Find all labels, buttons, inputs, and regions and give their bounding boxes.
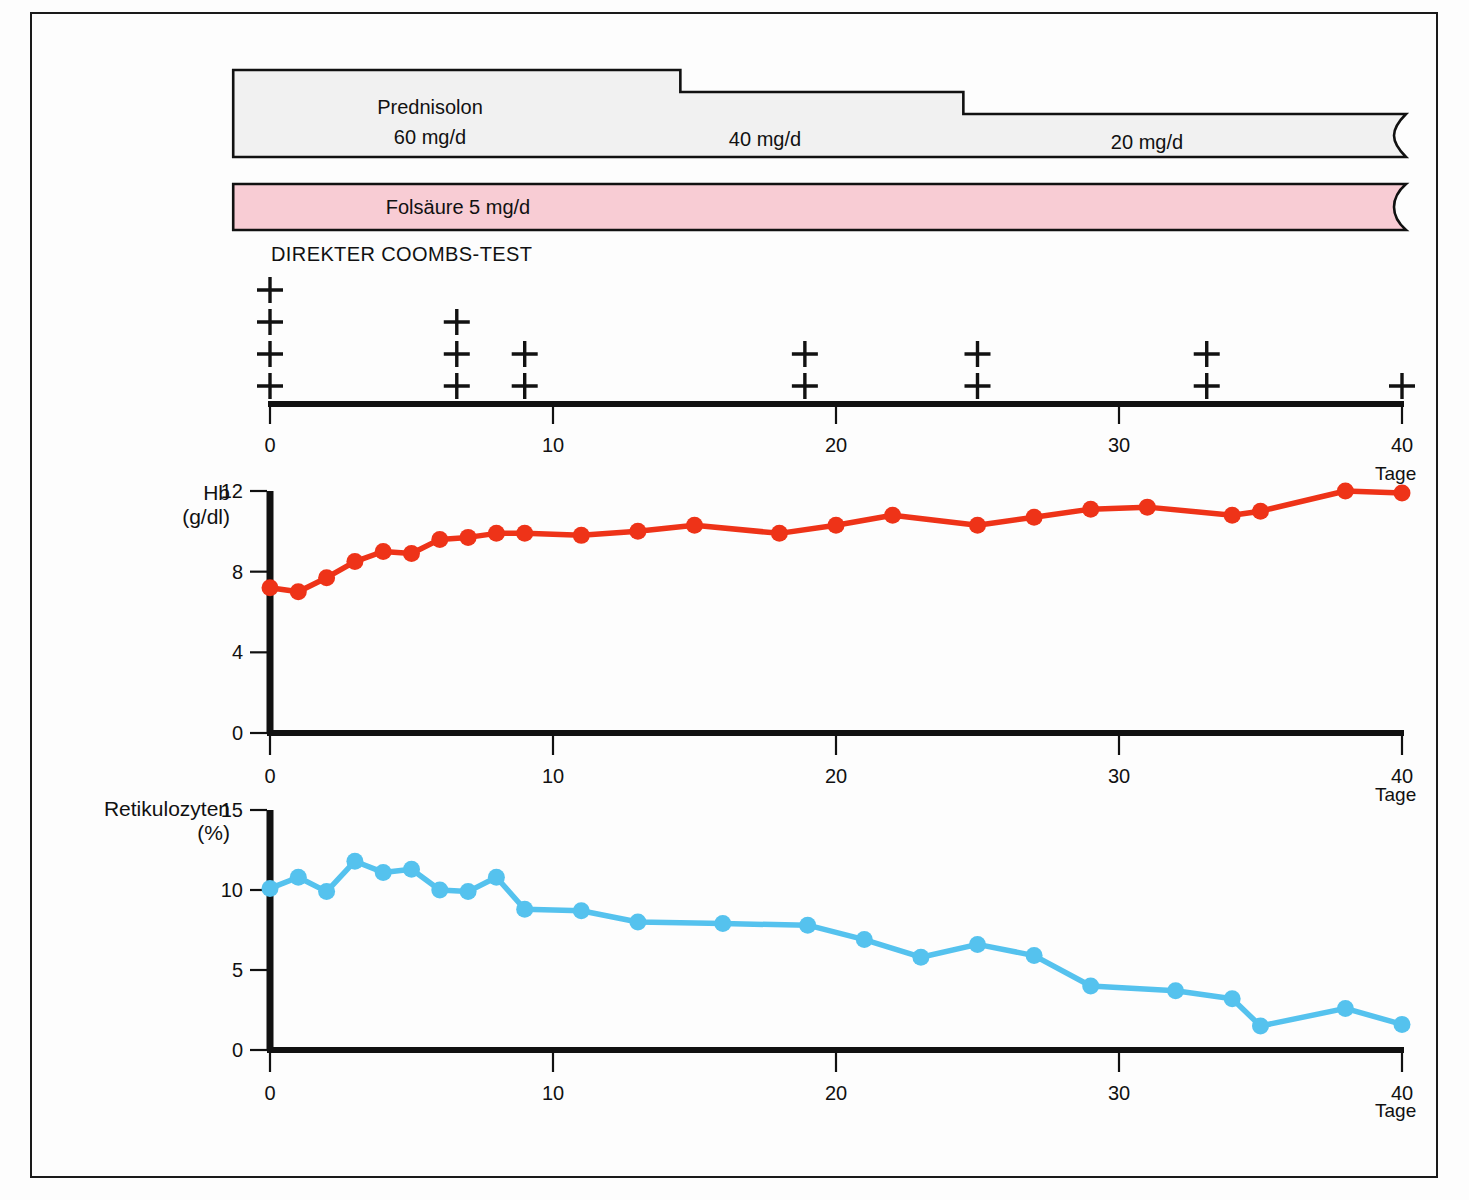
coombs-plus-icon	[965, 341, 991, 367]
retikulozyten-y-axis-tick-label: 0	[232, 1039, 243, 1061]
hb-axis-title: Hb	[120, 481, 230, 505]
prednisolon-dose-1-label: 60 mg/d	[355, 126, 505, 149]
retikulozyten-data-point	[1026, 947, 1043, 964]
coombs-reading	[512, 341, 538, 399]
retikulozyten-data-point	[1082, 978, 1099, 995]
haemoglobin-data-point	[771, 525, 788, 542]
haemoglobin-data-point	[1082, 501, 1099, 518]
coombs-plus-icon	[1194, 341, 1220, 367]
haemoglobin-data-point	[262, 579, 279, 596]
retikulozyten-data-point	[714, 915, 731, 932]
haemoglobin-data-point	[1026, 509, 1043, 526]
retikulozyten-data-point	[969, 936, 986, 953]
retikulozyten-data-point	[460, 883, 477, 900]
coombs-reading	[792, 341, 818, 399]
prednisolon-dose-2-label: 40 mg/d	[690, 128, 840, 151]
retikulozyten-data-point	[629, 914, 646, 931]
retikulozyten-data-point	[262, 880, 279, 897]
folsaeure-label: Folsäure 5 mg/d	[343, 196, 573, 219]
haemoglobin-y-axis-tick-label: 8	[232, 561, 243, 583]
hb-axis-caption: Tage	[1375, 784, 1416, 806]
retikulozyten-data-point	[488, 869, 505, 886]
haemoglobin-data-point	[1224, 507, 1241, 524]
hb-axis-unit: (g/dl)	[120, 505, 230, 529]
retikulozyten-data-point	[912, 949, 929, 966]
haemoglobin-data-point	[403, 545, 420, 562]
haemoglobin-data-point	[375, 543, 392, 560]
haemoglobin-data-point	[828, 517, 845, 534]
retikulozyten-data-point	[346, 853, 363, 870]
haemoglobin-data-point	[629, 523, 646, 540]
coombs-axis-caption: Tage	[1375, 463, 1416, 485]
retikulozyten-x-axis-tick-label: 20	[825, 1082, 847, 1104]
coombs-plus-icon	[512, 341, 538, 367]
coombs-plus-icon	[444, 309, 470, 335]
haemoglobin-x-axis-tick-label: 30	[1108, 765, 1130, 787]
coombs-reading	[1194, 341, 1220, 399]
retikulozyten-x-axis-tick-label: 0	[264, 1082, 275, 1104]
coombs-reading	[1389, 373, 1415, 399]
prednisolon-dose-3-label: 20 mg/d	[1072, 131, 1222, 154]
coombs-axis-tick-label: 20	[825, 434, 847, 456]
haemoglobin-data-point	[346, 553, 363, 570]
coombs-axis-tick-label: 10	[542, 434, 564, 456]
haemoglobin-data-point	[1139, 499, 1156, 516]
retikulozyten-data-point	[431, 882, 448, 899]
coombs-plus-icon	[1194, 373, 1220, 399]
haemoglobin-data-point	[290, 583, 307, 600]
haemoglobin-data-point	[969, 517, 986, 534]
coombs-plus-icon	[512, 373, 538, 399]
coombs-plus-icon	[257, 277, 283, 303]
retikulozyten-data-point	[1252, 1018, 1269, 1035]
retikulozyten-axis-unit: (%)	[60, 821, 230, 845]
retikulozyten-data-point	[290, 869, 307, 886]
retikulozyten-axis-title: Retikulozyten	[60, 797, 230, 821]
coombs-plus-icon	[444, 341, 470, 367]
coombs-plus-icon	[444, 373, 470, 399]
retikulozyten-data-point	[375, 864, 392, 881]
retikulozyten-data-point	[799, 917, 816, 934]
coombs-plus-icon	[792, 341, 818, 367]
coombs-reading	[444, 309, 470, 399]
retikulozyten-x-axis-tick-label: 10	[542, 1082, 564, 1104]
coombs-plus-icon	[1389, 373, 1415, 399]
chart-canvas: 01020304004812010203040051015010203040	[0, 0, 1469, 1200]
coombs-plus-icon	[257, 341, 283, 367]
haemoglobin-data-point	[884, 507, 901, 524]
haemoglobin-x-axis-tick-label: 0	[264, 765, 275, 787]
haemoglobin-x-axis-tick-label: 10	[542, 765, 564, 787]
haemoglobin-data-point	[1394, 485, 1411, 502]
retikulozyten-data-point	[1167, 982, 1184, 999]
haemoglobin-data-point	[431, 531, 448, 548]
haemoglobin-data-point	[1337, 483, 1354, 500]
haemoglobin-data-point	[488, 525, 505, 542]
retikulozyten-y-axis-tick-label: 5	[232, 959, 243, 981]
coombs-plus-icon	[257, 309, 283, 335]
haemoglobin-data-point	[686, 517, 703, 534]
coombs-axis-tick-label: 0	[264, 434, 275, 456]
haemoglobin-data-point	[1252, 503, 1269, 520]
retikulozyten-data-point	[1337, 1000, 1354, 1017]
coombs-plus-icon	[965, 373, 991, 399]
retikulozyten-axis-caption: Tage	[1375, 1100, 1416, 1122]
haemoglobin-y-axis-tick-label: 4	[232, 641, 243, 663]
prednisolon-drug-label: Prednisolon	[355, 96, 505, 119]
retikulozyten-y-axis-tick-label: 10	[221, 879, 243, 901]
coombs-reading	[257, 277, 283, 399]
haemoglobin-data-point	[318, 569, 335, 586]
haemoglobin-data-point	[516, 525, 533, 542]
retikulozyten-data-point	[1224, 990, 1241, 1007]
retikulozyten-data-point	[403, 861, 420, 878]
coombs-axis-tick-label: 40	[1391, 434, 1413, 456]
retikulozyten-data-point	[1394, 1016, 1411, 1033]
coombs-reading	[965, 341, 991, 399]
retikulozyten-x-axis-tick-label: 30	[1108, 1082, 1130, 1104]
haemoglobin-data-point	[460, 529, 477, 546]
haemoglobin-x-axis-tick-label: 20	[825, 765, 847, 787]
retikulozyten-data-point	[856, 931, 873, 948]
retikulozyten-data-point	[318, 883, 335, 900]
coombs-axis-tick-label: 30	[1108, 434, 1130, 456]
coombs-plus-icon	[257, 373, 283, 399]
haemoglobin-y-axis-tick-label: 0	[232, 722, 243, 744]
retikulozyten-data-point	[573, 902, 590, 919]
